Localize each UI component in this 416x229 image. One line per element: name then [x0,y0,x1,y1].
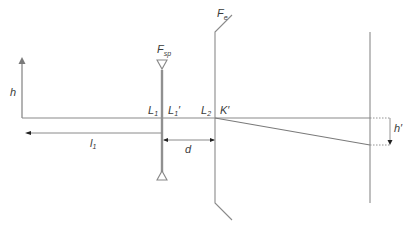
label-k-prime: K′ [220,104,230,116]
arrow-down-icon [388,140,393,145]
lens-l1 [157,60,167,180]
triangle-up-icon [157,171,167,180]
distance-l1-arrow [25,131,162,135]
optical-diagram: h Fsp L1 L1′ Fe L2 K′ h′ l1 d [0,0,416,229]
image-height-dimension [370,118,393,145]
triangle-down-icon [157,60,167,69]
ray-line [215,118,370,145]
distance-d-arrow [163,138,215,142]
object-height-arrow [19,57,26,118]
label-distance-l1: l1 [90,137,96,150]
label-h: h [10,86,16,98]
label-l2: L2 [201,104,211,117]
label-d: d [185,143,192,155]
label-l1-prime: L1′ [168,104,181,117]
arrow-left-icon [163,138,168,142]
arrow-up-icon [19,57,26,64]
label-fsp: Fsp [157,43,171,58]
label-l1: L1 [148,104,158,117]
label-h-prime: h′ [394,122,403,134]
label-fe: Fe [217,7,228,21]
arrow-right-icon [210,138,215,142]
arrow-left-icon [25,131,31,135]
